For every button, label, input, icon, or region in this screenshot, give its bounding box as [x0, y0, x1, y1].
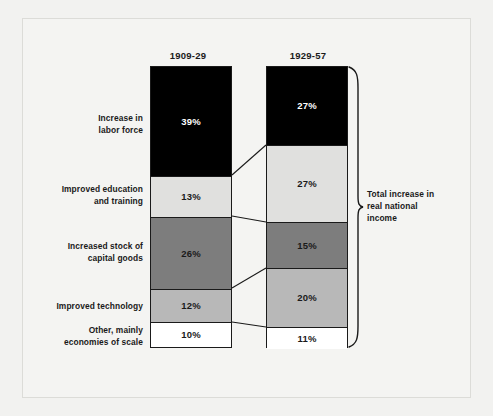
row-label-capital-goods: Increased stock of capital goods: [3, 240, 143, 264]
stacked-bar-1929-57[interactable]: 27% 27% 15% 20% 11%: [266, 66, 348, 348]
segment-technology-1929-57[interactable]: 20%: [267, 269, 347, 328]
annotation-line: Total increase in: [367, 188, 434, 200]
segment-value: 27%: [297, 101, 317, 111]
segment-value: 15%: [297, 241, 317, 251]
segment-value: 26%: [181, 249, 201, 259]
segment-capital-goods-1929-57[interactable]: 15%: [267, 223, 347, 269]
segment-technology-1909-29[interactable]: 12%: [151, 290, 231, 323]
segment-value: 12%: [181, 301, 201, 311]
curly-brace-icon: [348, 66, 364, 348]
segment-value: 20%: [297, 293, 317, 303]
segment-labor-force-1909-29[interactable]: 39%: [151, 67, 231, 177]
row-label-line: labor force: [3, 124, 143, 136]
segment-value: 10%: [181, 330, 201, 340]
row-label-line: and training: [3, 195, 143, 207]
annotation-line: real national: [367, 200, 434, 212]
row-label-labor-force: Increase in labor force: [3, 112, 143, 136]
segment-labor-force-1929-57[interactable]: 27%: [267, 67, 347, 146]
row-label-line: Other, mainly: [3, 324, 143, 336]
total-bracket: [348, 66, 364, 348]
segment-value: 27%: [297, 179, 317, 189]
row-label-improved-technology: Improved technology: [3, 300, 143, 312]
row-label-line: Increase in: [3, 112, 143, 124]
column-header-1929-57: 1929-57: [228, 50, 388, 61]
segment-value: 13%: [181, 192, 201, 202]
row-label-other-economies-of-scale: Other, mainly economies of scale: [3, 324, 143, 348]
segment-value: 39%: [181, 117, 201, 127]
segment-education-1909-29[interactable]: 13%: [151, 177, 231, 218]
row-label-line: economies of scale: [3, 336, 143, 348]
chart-figure: 1909-29 1929-57 Increase in labor force …: [0, 0, 493, 416]
segment-education-1929-57[interactable]: 27%: [267, 146, 347, 223]
stacked-bar-1909-29[interactable]: 39% 13% 26% 12% 10%: [150, 66, 232, 348]
annotation-line: income: [367, 212, 434, 224]
row-label-line: Improved technology: [3, 300, 143, 312]
total-increase-annotation: Total increase in real national income: [367, 188, 434, 225]
row-label-line: capital goods: [3, 252, 143, 264]
segment-other-1909-29[interactable]: 10%: [151, 323, 231, 347]
segment-other-1929-57[interactable]: 11%: [267, 328, 347, 349]
row-label-education-training: Improved education and training: [3, 183, 143, 207]
segment-value: 11%: [297, 334, 316, 344]
row-label-line: Increased stock of: [3, 240, 143, 252]
row-label-line: Improved education: [3, 183, 143, 195]
segment-capital-goods-1909-29[interactable]: 26%: [151, 218, 231, 290]
